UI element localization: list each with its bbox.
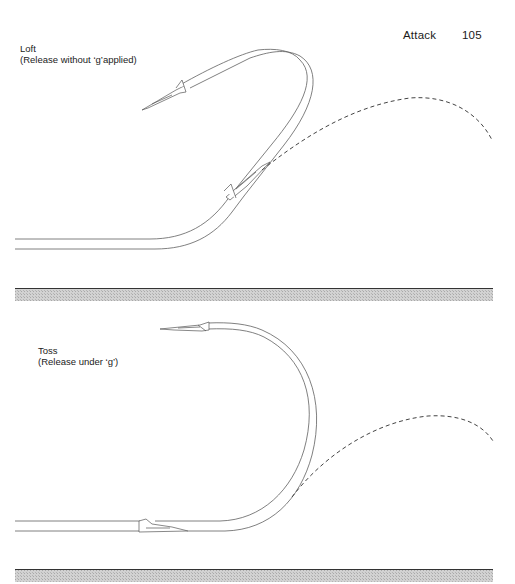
toss-subtitle: (Release under ‘g’) xyxy=(38,356,118,367)
toss-label: Toss (Release under ‘g’) xyxy=(38,345,118,367)
toss-title: Toss xyxy=(38,345,118,356)
book-page: Attack 105 xyxy=(0,0,515,584)
aircraft-icon xyxy=(224,162,270,200)
loft-flight-path-upper xyxy=(15,49,307,239)
loft-subtitle: (Release without ‘g’applied) xyxy=(20,54,137,65)
aircraft-icon xyxy=(160,322,209,331)
loft-panel xyxy=(15,49,493,301)
toss-weapon-trajectory xyxy=(292,416,493,497)
toss-ground-strip xyxy=(15,570,493,583)
loft-ground-strip xyxy=(15,289,493,302)
aircraft-icon xyxy=(142,80,186,110)
loft-title: Loft xyxy=(20,43,137,54)
loft-flight-path-lower xyxy=(15,52,313,249)
loft-label: Loft (Release without ‘g’applied) xyxy=(20,43,137,65)
loft-weapon-trajectory xyxy=(262,98,492,170)
attack-profiles-diagram xyxy=(0,0,515,584)
